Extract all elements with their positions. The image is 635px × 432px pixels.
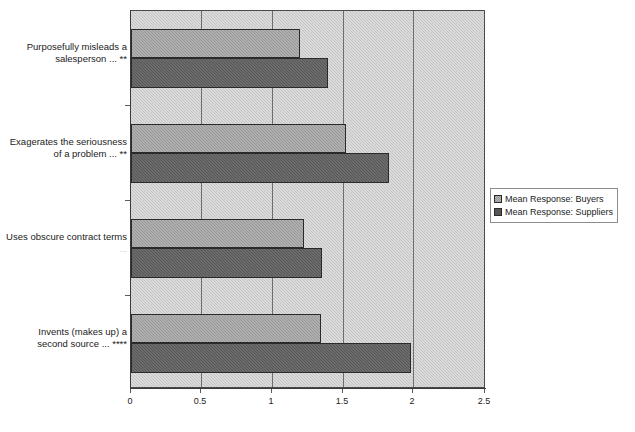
chart-legend: Mean Response: Buyers Mean Response: Sup… bbox=[490, 188, 618, 223]
bar-buyers-1 bbox=[131, 29, 300, 58]
legend-item-buyers: Mean Response: Buyers bbox=[494, 192, 613, 205]
category-label-2-line-1: Exagerates the seriousness bbox=[0, 136, 127, 148]
x-axis-label-0: 0 bbox=[110, 396, 150, 406]
category-label-1-line-2: salesperson ... ** bbox=[0, 53, 127, 65]
category-label-3: Uses obscure contract terms ... bbox=[0, 231, 127, 255]
bar-buyers-4 bbox=[131, 314, 321, 343]
bar-buyers-3 bbox=[131, 219, 304, 248]
category-label-2-line-2: of a problem ... ** bbox=[0, 148, 127, 160]
category-label-4-line-2: second source ... **** bbox=[0, 338, 127, 350]
x-axis-label-2: 2 bbox=[392, 396, 432, 406]
x-axis-tick-0.5 bbox=[200, 389, 201, 393]
bar-suppliers-2 bbox=[131, 153, 389, 183]
y-axis-tick-1 bbox=[125, 105, 130, 106]
category-label-4-line-1: Invents (makes up) a bbox=[0, 326, 127, 338]
y-axis-line bbox=[130, 10, 131, 389]
legend-swatch-suppliers-icon bbox=[494, 208, 502, 216]
x-axis-label-1.5: 1.5 bbox=[322, 396, 362, 406]
bar-chart: 0 0.5 1 1.5 2 2.5 Purposefully misleads … bbox=[0, 0, 635, 432]
y-axis-tick-2 bbox=[125, 200, 130, 201]
x-axis-tick-2 bbox=[412, 389, 413, 393]
x-axis-tick-2.5 bbox=[484, 389, 485, 393]
legend-item-suppliers: Mean Response: Suppliers bbox=[494, 205, 613, 218]
x-axis-line bbox=[130, 388, 486, 389]
x-axis-tick-1 bbox=[271, 389, 272, 393]
bar-buyers-2 bbox=[131, 124, 346, 153]
category-label-4: Invents (makes up) a second source ... *… bbox=[0, 326, 127, 350]
x-axis-label-2.5: 2.5 bbox=[464, 396, 504, 406]
legend-label-buyers: Mean Response: Buyers bbox=[505, 194, 604, 204]
category-label-1: Purposefully misleads a salesperson ... … bbox=[0, 41, 127, 65]
bar-suppliers-3 bbox=[131, 248, 322, 278]
legend-label-suppliers: Mean Response: Suppliers bbox=[505, 207, 613, 217]
gridline-1.5 bbox=[343, 11, 344, 387]
x-axis-label-1: 1 bbox=[251, 396, 291, 406]
category-label-3-line-2: ... bbox=[0, 243, 127, 255]
x-axis-tick-1.5 bbox=[342, 389, 343, 393]
y-axis-tick-3 bbox=[125, 295, 130, 296]
bar-suppliers-4 bbox=[131, 343, 411, 373]
x-axis-tick-0 bbox=[130, 389, 131, 393]
gridline-2 bbox=[413, 11, 414, 387]
category-label-1-line-1: Purposefully misleads a bbox=[0, 41, 127, 53]
category-label-3-line-1: Uses obscure contract terms bbox=[0, 231, 127, 243]
bar-suppliers-1 bbox=[131, 58, 328, 88]
x-axis-label-0.5: 0.5 bbox=[180, 396, 220, 406]
category-label-2: Exagerates the seriousness of a problem … bbox=[0, 136, 127, 160]
legend-swatch-buyers-icon bbox=[494, 195, 502, 203]
plot-area bbox=[130, 10, 485, 388]
